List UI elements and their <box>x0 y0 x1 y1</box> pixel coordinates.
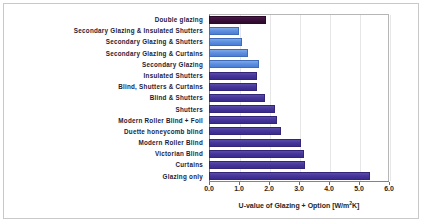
bar-series <box>209 14 389 182</box>
tick-label: 0.0 <box>204 185 214 192</box>
bar <box>209 105 275 113</box>
category-label: Victorian Blind <box>4 148 207 159</box>
tick-label: 2.0 <box>264 185 274 192</box>
category-label: Blind & Shutters <box>4 92 207 103</box>
category-label: Modern Roller Blind <box>4 137 207 148</box>
bar-row <box>209 48 389 59</box>
bar-row <box>209 81 389 92</box>
bar-row <box>209 126 389 137</box>
category-axis-labels: Double glazingSecondary Glazing & Insula… <box>4 14 207 182</box>
gridline <box>390 15 391 181</box>
bar <box>209 150 304 158</box>
bar <box>209 127 281 135</box>
x-axis-title-tail: K] <box>352 202 359 209</box>
bar <box>209 49 248 57</box>
bar <box>209 72 257 80</box>
category-label: Curtains <box>4 159 207 170</box>
category-label: Secondary Glazing & Insulated Shutters <box>4 25 207 36</box>
category-label: Duette honeycomb blind <box>4 126 207 137</box>
bar-row <box>209 25 389 36</box>
x-axis-ticks: 0.01.02.03.04.05.06.0 <box>209 182 389 192</box>
bar <box>209 83 257 91</box>
bar-row <box>209 104 389 115</box>
bar-row <box>209 70 389 81</box>
bar <box>209 16 266 24</box>
category-label: Secondary Glazing & Curtains <box>4 48 207 59</box>
bar <box>209 94 265 102</box>
bar-row <box>209 115 389 126</box>
bar-row <box>209 171 389 182</box>
bar <box>209 116 277 124</box>
bar-row <box>209 36 389 47</box>
bar-row <box>209 137 389 148</box>
category-label: Modern Roller Blind + Foil <box>4 115 207 126</box>
category-label: Blind, Shutters & Curtains <box>4 81 207 92</box>
category-label: Insulated Shutters <box>4 70 207 81</box>
category-label: Secondary Glazing <box>4 59 207 70</box>
x-axis-title: U-value of Glazing + Option [W/m2K] <box>209 200 389 209</box>
bar <box>209 139 301 147</box>
category-label: Secondary Glazing & Shutters <box>4 36 207 47</box>
x-axis-title-text: U-value of Glazing + Option [W/m <box>239 202 350 209</box>
bar <box>209 38 242 46</box>
tick-label: 4.0 <box>324 185 334 192</box>
bar-row <box>209 92 389 103</box>
chart-plot-wrapper: Double glazingSecondary Glazing & Insula… <box>4 4 418 218</box>
bar <box>209 172 370 180</box>
bar-row <box>209 59 389 70</box>
tick-label: 1.0 <box>234 185 244 192</box>
category-label: Double glazing <box>4 14 207 25</box>
bar-row <box>209 14 389 25</box>
tick-label: 5.0 <box>354 185 364 192</box>
bar-row <box>209 148 389 159</box>
tick-label: 3.0 <box>294 185 304 192</box>
category-label: Glazing only <box>4 171 207 182</box>
bar <box>209 60 259 68</box>
bar-row <box>209 159 389 170</box>
category-label: Shutters <box>4 104 207 115</box>
chart-frame: Double glazingSecondary Glazing & Insula… <box>3 3 419 219</box>
bar <box>209 27 239 35</box>
bar <box>209 161 305 169</box>
tick-label: 6.0 <box>384 185 394 192</box>
